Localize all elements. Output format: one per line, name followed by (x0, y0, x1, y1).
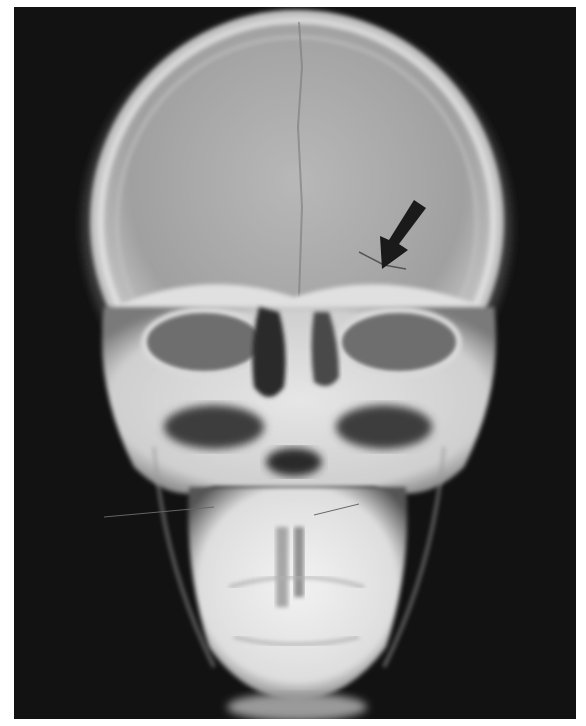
skull-radiograph (14, 7, 576, 719)
xray-image: PA X-ray of skull with arrow indicating … (14, 7, 576, 719)
